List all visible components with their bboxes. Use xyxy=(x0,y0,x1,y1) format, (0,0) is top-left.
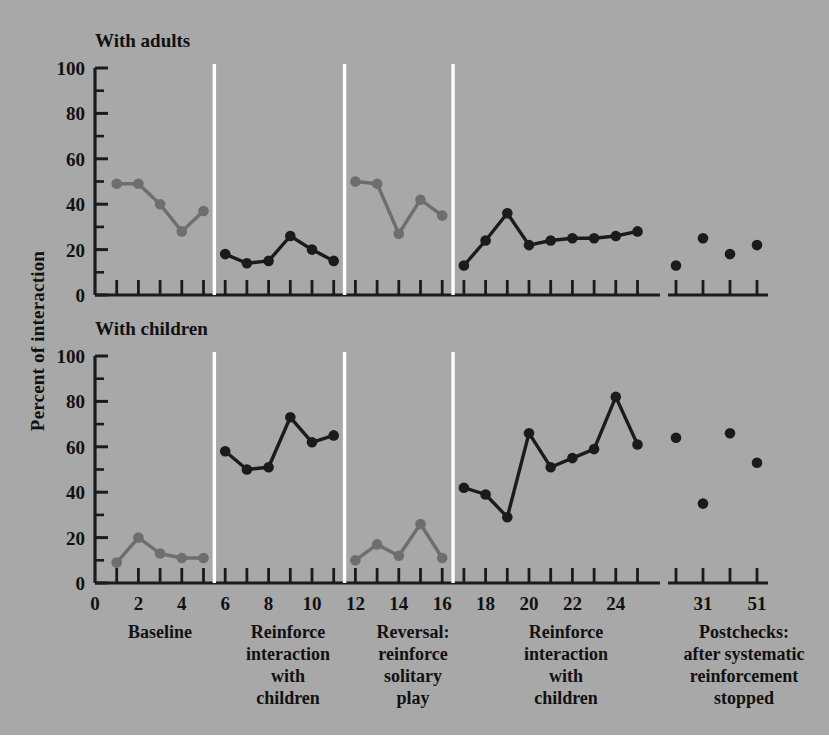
x-tick-label: 6 xyxy=(220,593,230,614)
x-tick-label: 18 xyxy=(476,593,495,614)
data-point xyxy=(698,233,709,244)
x-tick-label: 22 xyxy=(563,593,582,614)
data-point xyxy=(671,260,682,271)
panel-with-adults: 020406080100 xyxy=(57,58,769,306)
data-point xyxy=(459,260,470,271)
data-point xyxy=(133,179,144,190)
figure-bottom-margin xyxy=(0,735,829,742)
data-point xyxy=(567,233,578,244)
series-line xyxy=(464,397,638,517)
data-point xyxy=(155,199,166,210)
data-point xyxy=(725,428,736,439)
phase-caption-line: solitary xyxy=(358,665,468,687)
figure-canvas: Percent of interaction With adults With … xyxy=(0,0,829,735)
data-point xyxy=(285,412,296,423)
data-point xyxy=(524,240,535,251)
phase-caption-line: Reinforce xyxy=(222,621,354,643)
x-tick-label: 16 xyxy=(433,593,452,614)
phase-caption-line: Reinforce xyxy=(470,621,662,643)
phase-caption-reinforce-1: Reinforceinteractionwithchildren xyxy=(222,621,354,709)
data-point xyxy=(263,256,274,267)
y-tick-label: 20 xyxy=(66,240,85,261)
data-point xyxy=(671,432,682,443)
data-point xyxy=(524,428,535,439)
data-point xyxy=(589,233,600,244)
data-point xyxy=(111,179,122,190)
data-point xyxy=(545,235,556,246)
phase-caption-line: Baseline xyxy=(100,621,220,643)
x-tick-label: 10 xyxy=(303,593,322,614)
phase-caption-line: children xyxy=(222,687,354,709)
phase-caption-line: Postchecks: xyxy=(660,621,828,643)
data-point xyxy=(242,464,253,475)
data-point xyxy=(502,512,513,523)
y-tick-label: 0 xyxy=(76,573,86,594)
data-point xyxy=(415,194,426,205)
x-tick-label-postcheck: 51 xyxy=(748,593,767,614)
data-point xyxy=(285,231,296,242)
data-point xyxy=(394,228,405,239)
data-point xyxy=(415,519,426,530)
phase-caption-line: interaction xyxy=(222,643,354,665)
data-point xyxy=(459,482,470,493)
series-line xyxy=(225,417,334,469)
phase-caption-line: Reversal: xyxy=(358,621,468,643)
data-point xyxy=(220,446,231,457)
data-point xyxy=(372,539,383,550)
data-point xyxy=(480,235,491,246)
data-point xyxy=(372,179,383,190)
y-tick-label: 40 xyxy=(66,194,85,215)
series-line xyxy=(225,236,334,263)
data-point xyxy=(350,555,361,566)
data-point xyxy=(307,244,318,255)
y-tick-label: 60 xyxy=(66,149,85,170)
y-tick-label: 40 xyxy=(66,482,85,503)
y-tick-label: 80 xyxy=(66,103,85,124)
data-point xyxy=(242,258,253,269)
phase-caption-line: reinforce xyxy=(358,643,468,665)
phase-caption-line: stopped xyxy=(660,687,828,709)
x-tick-label: 12 xyxy=(346,593,365,614)
phase-caption-reinforce-2: Reinforceinteractionwithchildren xyxy=(470,621,662,709)
phase-caption-baseline: Baseline xyxy=(100,621,220,643)
x-tick-label-postcheck: 31 xyxy=(694,593,713,614)
x-tick-label: 14 xyxy=(389,593,409,614)
data-point xyxy=(725,249,736,260)
data-point xyxy=(307,437,318,448)
data-point xyxy=(611,231,622,242)
y-tick-label: 100 xyxy=(57,346,86,367)
data-point xyxy=(133,532,144,543)
data-point xyxy=(111,557,122,568)
phase-caption-line: with xyxy=(470,665,662,687)
x-tick-label: 20 xyxy=(520,593,539,614)
data-point xyxy=(198,553,209,564)
data-point xyxy=(589,444,600,455)
data-point xyxy=(220,249,231,260)
data-point xyxy=(502,208,513,219)
y-tick-label: 100 xyxy=(57,58,86,79)
data-point xyxy=(632,226,643,237)
x-tick-label: 0 xyxy=(90,593,100,614)
data-point xyxy=(328,430,339,441)
phase-caption-reversal: Reversal:reinforcesolitaryplay xyxy=(358,621,468,709)
y-tick-label: 80 xyxy=(66,391,85,412)
data-point xyxy=(437,553,448,564)
series-line xyxy=(355,182,442,234)
data-point xyxy=(328,256,339,267)
data-point xyxy=(698,498,709,509)
x-tick-label: 2 xyxy=(134,593,144,614)
data-point xyxy=(437,210,448,221)
y-tick-label: 60 xyxy=(66,437,85,458)
y-tick-label: 20 xyxy=(66,528,85,549)
data-point xyxy=(263,462,274,473)
phase-caption-line: with xyxy=(222,665,354,687)
y-tick-label: 0 xyxy=(76,285,86,306)
phase-caption-line: reinforcement xyxy=(660,665,828,687)
data-point xyxy=(752,457,763,468)
phase-caption-line: play xyxy=(358,687,468,709)
phase-caption-line: after systematic xyxy=(660,643,828,665)
phase-caption-postchecks: Postchecks:after systematicreinforcement… xyxy=(660,621,828,709)
data-point xyxy=(198,206,209,217)
phase-caption-line: children xyxy=(470,687,662,709)
x-tick-label: 24 xyxy=(606,593,626,614)
